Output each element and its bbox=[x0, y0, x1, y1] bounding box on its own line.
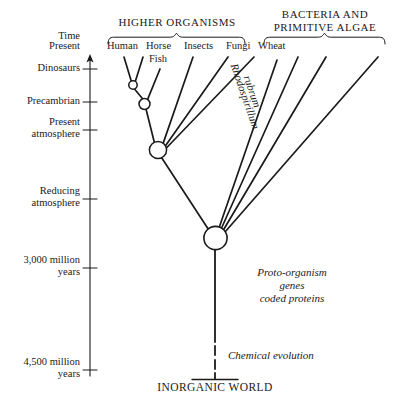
annotation-proto-organism-line3: coded proteins bbox=[233, 293, 351, 304]
branch-eukaryote-stem bbox=[162, 158, 209, 230]
node-eukaryotes bbox=[149, 141, 166, 158]
annotation-chemical-evolution: Chemical evolution bbox=[228, 350, 314, 361]
group-title-bacteria-line2: PRIMITIVE ALGAE bbox=[254, 22, 396, 33]
tip-label-fish: Fish bbox=[149, 54, 167, 65]
branch-mammals bbox=[135, 89, 143, 99]
evolution-tree-figure: HIGHER ORGANISMS BACTERIA AND PRIMITIVE … bbox=[0, 0, 396, 404]
annotation-proto-organism-line2: genes bbox=[233, 280, 351, 291]
axis-label-reducing-atmosphere-line1: Reducing bbox=[6, 186, 80, 197]
axis-label-3000-million-line2: years bbox=[0, 267, 80, 278]
axis-label-reducing-atmosphere-line2: atmosphere bbox=[6, 198, 80, 209]
group-title-higher-organisms: HIGHER ORGANISMS bbox=[106, 17, 248, 28]
axis-label-3000-million-line1: 3,000 million bbox=[0, 255, 80, 266]
axis-label-present-atmosphere-line1: Present bbox=[6, 117, 80, 128]
node-proto-organism bbox=[204, 226, 227, 249]
axis-label-present-atmosphere-line2: atmosphere bbox=[6, 129, 80, 140]
tip-label-insects: Insects bbox=[184, 41, 213, 52]
axis-label-4500-million-line2: years bbox=[0, 369, 80, 380]
branch-fungi bbox=[165, 57, 228, 147]
tip-label-human: Human bbox=[107, 41, 138, 52]
branch-fish bbox=[148, 69, 161, 100]
branch-insects bbox=[163, 57, 193, 145]
branch-vertebrates-stem bbox=[146, 109, 154, 142]
annotation-inorganic-world: INORGANIC WORLD bbox=[135, 382, 295, 394]
tip-label-horse: Horse bbox=[146, 41, 171, 52]
branch-human bbox=[124, 57, 131, 81]
node-vertebrates bbox=[139, 99, 150, 110]
branch-horse bbox=[135, 57, 143, 82]
time-axis-arrowhead bbox=[86, 54, 93, 63]
node-human-horse bbox=[129, 81, 137, 89]
tip-label-fungi: Fungi bbox=[226, 41, 251, 52]
annotation-proto-organism-line1: Proto-organism bbox=[233, 267, 351, 278]
tip-label-wheat: Wheat bbox=[258, 41, 285, 52]
axis-label-precambrian: Precambrian bbox=[4, 96, 80, 107]
axis-label-4500-million-line1: 4,500 million bbox=[0, 357, 80, 368]
axis-label-present-top: Present bbox=[18, 41, 80, 52]
group-title-bacteria-line1: BACTERIA AND bbox=[254, 9, 396, 20]
axis-label-dinosaurs: Dinosaurs bbox=[10, 63, 80, 74]
